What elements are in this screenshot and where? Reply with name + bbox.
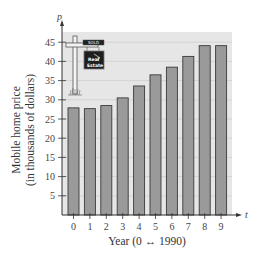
x-axis-label: Year (0 ↔ 1990) xyxy=(108,235,186,248)
y-tick-label: 25 xyxy=(45,114,55,125)
bar-8 xyxy=(199,46,210,215)
y-tick-label: 5 xyxy=(50,190,55,201)
sign-text-real: Real xyxy=(88,57,100,62)
y-tick-label: 15 xyxy=(45,152,55,163)
x-tick-label: 7 xyxy=(186,221,191,232)
x-tick-label: 8 xyxy=(202,221,207,232)
x-axis-ticks: 0123456789 xyxy=(71,213,224,232)
sign-text-estate: Estate xyxy=(87,63,103,68)
bar-0 xyxy=(68,108,79,215)
bar-6 xyxy=(166,67,177,215)
x-tick-label: 5 xyxy=(153,221,158,232)
y-tick-label: 20 xyxy=(45,133,55,144)
x-variable-label: t xyxy=(245,209,248,220)
x-tick-label: 9 xyxy=(219,221,224,232)
y-tick-label: 30 xyxy=(45,94,55,105)
x-tick-label: 4 xyxy=(137,221,142,232)
y-tick-label: 10 xyxy=(45,171,55,182)
x-axis-arrow-icon xyxy=(236,213,242,217)
x-tick-label: 2 xyxy=(104,221,109,232)
y-tick-label: 35 xyxy=(45,75,55,86)
y-axis-label-line1: Mobile home price xyxy=(10,86,23,174)
x-tick-label: 6 xyxy=(169,221,174,232)
bar-4 xyxy=(134,86,145,215)
sold-sign-text: SOLD xyxy=(88,40,99,45)
x-tick-label: 1 xyxy=(87,221,92,232)
bar-chart: SOLD Real Estate 51015202530354045 01234… xyxy=(0,0,256,259)
bar-1 xyxy=(84,109,95,215)
bar-7 xyxy=(183,56,194,215)
y-axis-ticks: 51015202530354045 xyxy=(45,37,66,202)
bar-2 xyxy=(101,106,112,215)
y-axis-label-line2: (in thousands of dollars) xyxy=(24,74,37,186)
bar-5 xyxy=(150,75,161,215)
y-tick-label: 45 xyxy=(45,37,55,48)
x-tick-label: 3 xyxy=(120,221,125,232)
x-tick-label: 0 xyxy=(71,221,76,232)
y-variable-label: p xyxy=(56,11,62,22)
bar-9 xyxy=(216,46,227,215)
y-tick-label: 40 xyxy=(45,56,55,67)
bar-3 xyxy=(117,98,128,215)
